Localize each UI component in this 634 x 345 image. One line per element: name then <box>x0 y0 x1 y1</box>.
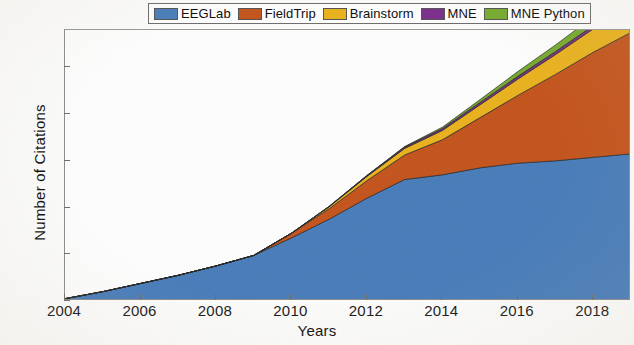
y-tick-mark <box>64 253 70 254</box>
x-tick-label: 2010 <box>260 303 320 318</box>
legend-entry-brainstorm[interactable]: Brainstorm <box>323 7 414 20</box>
legend-swatch-icon <box>421 8 445 20</box>
area-series-eeglab <box>65 154 630 300</box>
legend-label: FieldTrip <box>265 7 316 20</box>
x-tick-label: 2016 <box>487 303 547 318</box>
legend-swatch-icon <box>238 8 262 20</box>
stacked-area-plot <box>65 30 630 300</box>
x-tick-mark <box>290 294 291 300</box>
x-tick-mark <box>140 294 141 300</box>
y-tick-mark <box>64 66 70 67</box>
y-tick-mark <box>64 207 70 208</box>
area-series-group <box>65 30 630 300</box>
y-tick-mark <box>64 113 70 114</box>
chart-legend: EEGLabFieldTripBrainstormMNEMNE Python <box>148 3 591 24</box>
x-tick-mark <box>64 294 65 300</box>
plot-area <box>64 29 630 300</box>
legend-swatch-icon <box>154 8 178 20</box>
legend-entry-mne-python[interactable]: MNE Python <box>484 7 585 20</box>
x-tick-label: 2004 <box>34 303 94 318</box>
y-axis-title: Number of Citations <box>31 58 48 288</box>
x-tick-mark <box>592 294 593 300</box>
legend-entry-mne[interactable]: MNE <box>421 7 477 20</box>
x-tick-label: 2006 <box>110 303 170 318</box>
x-tick-mark <box>366 294 367 300</box>
y-tick-mark <box>64 300 70 301</box>
x-tick-mark <box>215 294 216 300</box>
x-tick-label: 2018 <box>562 303 622 318</box>
chart-figure: EEGLabFieldTripBrainstormMNEMNE Python N… <box>0 0 634 345</box>
legend-label: EEGLab <box>181 7 231 20</box>
x-tick-label: 2014 <box>411 303 471 318</box>
legend-label: MNE <box>448 7 477 20</box>
x-tick-label: 2012 <box>336 303 396 318</box>
legend-entry-eeglab[interactable]: EEGLab <box>154 7 231 20</box>
legend-swatch-icon <box>484 8 508 20</box>
x-tick-mark <box>517 294 518 300</box>
y-tick-mark <box>64 160 70 161</box>
legend-label: MNE Python <box>511 7 585 20</box>
legend-swatch-icon <box>323 8 347 20</box>
legend-entry-fieldtrip[interactable]: FieldTrip <box>238 7 316 20</box>
x-tick-label: 2008 <box>185 303 245 318</box>
x-axis-title: Years <box>0 322 634 339</box>
legend-label: Brainstorm <box>350 7 414 20</box>
x-tick-mark <box>441 294 442 300</box>
